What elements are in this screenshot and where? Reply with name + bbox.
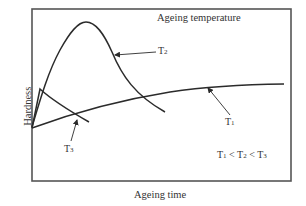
arrow-t3 <box>71 120 77 141</box>
ageing-temperature-title: Ageing temperature <box>157 13 241 24</box>
order-t2: T2 <box>237 149 247 160</box>
t1-subscript: 1 <box>231 119 235 127</box>
arrow-t2 <box>115 52 156 55</box>
order-t3: T3 <box>257 149 267 160</box>
y-axis-label: Hardness <box>23 81 34 131</box>
arrow-t1 <box>208 88 230 115</box>
t2-subscript: 2 <box>164 48 168 56</box>
order-t1: T1 <box>217 149 227 160</box>
x-axis-label: Ageing time <box>134 190 186 201</box>
diagram-canvas <box>0 0 306 206</box>
curve-t2 <box>32 22 165 127</box>
curve-label-t1: T1 <box>225 117 235 127</box>
t3-subscript: 3 <box>70 146 74 154</box>
ageing-hardness-diagram: Ageing temperature Ageing time Hardness … <box>0 0 306 206</box>
curve-label-t2: T2 <box>158 46 168 56</box>
curve-label-t3: T3 <box>64 144 74 154</box>
temperature-order-annotation: T1 < T2 < T3 <box>217 150 267 160</box>
curve-t1 <box>32 84 284 128</box>
curve-t3 <box>32 89 89 128</box>
